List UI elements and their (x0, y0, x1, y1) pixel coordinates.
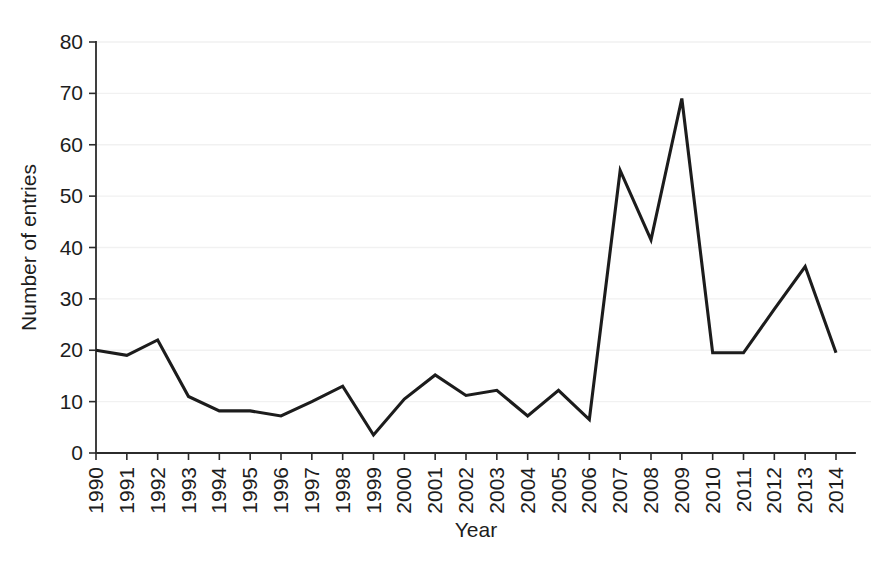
y-tick-label: 30 (60, 287, 83, 310)
x-tick-label: 1992 (146, 467, 169, 514)
x-tick-label: 1993 (177, 467, 200, 514)
x-tick-label: 2003 (485, 467, 508, 514)
x-tick-label: 1998 (331, 467, 354, 514)
x-tick-label: 2006 (577, 467, 600, 514)
y-tick-label: 50 (60, 184, 83, 207)
x-tick-label: 1990 (84, 467, 107, 514)
x-tick-label: 2002 (454, 467, 477, 514)
y-tick-label: 40 (60, 236, 83, 259)
x-tick-label: 2005 (547, 467, 570, 514)
x-tick-label: 2000 (392, 467, 415, 514)
y-tick-label: 60 (60, 133, 83, 156)
x-tick-label: 1997 (300, 467, 323, 514)
x-tick-label: 2014 (824, 467, 847, 514)
x-tick-label: 2001 (423, 467, 446, 514)
x-tick-label: 1991 (115, 467, 138, 514)
x-tick-label: 2008 (639, 467, 662, 514)
chart-canvas: 01020304050607080 1990199119921993199419… (0, 0, 887, 562)
x-tick-labels-group: 1990199119921993199419951996199719981999… (84, 467, 847, 514)
x-tick-label: 2011 (732, 467, 755, 512)
x-tick-label: 1994 (207, 467, 230, 514)
y-tick-labels-group: 01020304050607080 (60, 30, 83, 464)
x-tick-label: 2012 (762, 467, 785, 514)
line-chart-figure: 01020304050607080 1990199119921993199419… (0, 0, 887, 562)
y-tick-label: 20 (60, 338, 83, 361)
x-tick-label: 1996 (269, 467, 292, 514)
y-axis-title: Number of entries (17, 164, 40, 331)
x-tick-label: 2013 (793, 467, 816, 514)
y-tick-label: 80 (60, 30, 83, 53)
x-axis-title: Year (455, 518, 497, 541)
y-tick-label: 0 (71, 441, 83, 464)
x-tick-label: 2007 (608, 467, 631, 514)
x-tick-label: 2004 (516, 467, 539, 514)
x-tick-label: 2010 (701, 467, 724, 514)
y-tick-label: 70 (60, 81, 83, 104)
x-tick-label: 1999 (362, 467, 385, 514)
y-tick-label: 10 (60, 390, 83, 413)
x-tick-label: 1995 (238, 467, 261, 514)
x-tick-label: 2009 (670, 467, 693, 514)
